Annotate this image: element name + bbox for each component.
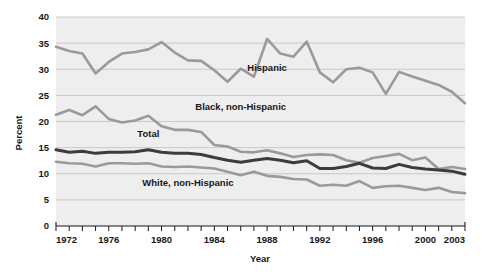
y-axis-tick-label: 20 (38, 116, 49, 127)
y-axis-title: Percent (13, 115, 24, 151)
y-axis-tick-label: 5 (44, 194, 50, 205)
x-axis-tick-label: 2003 (444, 234, 465, 245)
y-axis-tick-label: 25 (38, 90, 49, 101)
series-label-black-non-hispanic: Black, non-Hispanic (195, 101, 286, 112)
x-axis-tickmarks (56, 226, 465, 231)
y-axis-tick-label: 35 (38, 38, 49, 49)
series-label-hispanic: Hispanic (247, 62, 287, 73)
x-axis-tick-label: 1992 (309, 234, 330, 245)
series-label-total: Total (137, 128, 159, 139)
x-axis-tick-label: 1980 (151, 234, 172, 245)
y-axis-tick-label: 10 (38, 168, 49, 179)
y-axis-tick-label: 40 (38, 11, 49, 22)
x-axis-tick-label: 2000 (415, 234, 436, 245)
x-axis-tick-label: 1972 (56, 234, 77, 245)
y-axis-tick-label: 0 (44, 220, 49, 231)
x-axis-tick-label: 1976 (98, 234, 119, 245)
x-axis-title: Year (250, 253, 270, 264)
line-chart: 0510152025303540 19721976198019841988199… (0, 0, 503, 272)
y-axis-tick-label: 15 (38, 142, 49, 153)
x-axis-tick-label: 1996 (362, 234, 383, 245)
series-label-white-non-hispanic: White, non-Hispanic (142, 177, 233, 188)
y-axis-tick-label: 30 (38, 64, 49, 75)
x-axis-tick-labels: 197219761980198419881992199620002003 (56, 234, 465, 245)
x-axis-tick-label: 1984 (204, 234, 226, 245)
y-axis-tick-labels: 0510152025303540 (38, 11, 49, 231)
x-axis-tick-label: 1988 (257, 234, 278, 245)
chart-container: 0510152025303540 19721976198019841988199… (0, 0, 503, 272)
